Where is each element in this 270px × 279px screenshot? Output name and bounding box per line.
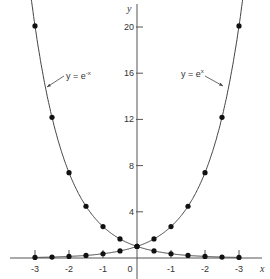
data-point xyxy=(32,23,37,28)
data-point xyxy=(117,236,122,241)
annotation-e-x: y = ex xyxy=(181,68,223,86)
data-point xyxy=(185,204,190,209)
x-tick-label: -3 xyxy=(31,264,39,274)
data-point xyxy=(219,254,224,259)
data-point xyxy=(83,204,88,209)
axes: x y xyxy=(10,3,265,279)
data-point xyxy=(100,224,105,229)
data-point xyxy=(66,254,71,259)
y-tick-label: 16 xyxy=(124,68,134,78)
data-point xyxy=(117,248,122,253)
x-tick-label: -1 xyxy=(99,264,107,274)
x-tick-label: -2 xyxy=(65,264,73,274)
annotation-e-neg-x: y = e-x xyxy=(47,70,91,87)
curve-e-neg-x xyxy=(31,0,239,257)
arrow-head-icon xyxy=(47,84,51,87)
data-point xyxy=(202,170,207,175)
data-point xyxy=(236,255,241,260)
data-point xyxy=(151,236,156,241)
curve-annotations: y = e-xy = ex xyxy=(47,68,223,87)
data-point xyxy=(185,253,190,258)
data-point xyxy=(151,248,156,253)
data-point xyxy=(219,115,224,120)
y-tick-label: 20 xyxy=(124,22,134,32)
data-point xyxy=(32,255,37,260)
data-point xyxy=(66,170,71,175)
data-point xyxy=(168,224,173,229)
data-point xyxy=(168,251,173,256)
data-point xyxy=(49,115,54,120)
data-point xyxy=(83,253,88,258)
x-tick-label: -3 xyxy=(235,264,243,274)
data-point xyxy=(134,244,139,249)
curve-label-text: y = ex xyxy=(181,68,204,79)
y-tick-label: 4 xyxy=(129,207,134,217)
data-point xyxy=(100,251,105,256)
curve-label-text: y = e-x xyxy=(66,70,91,81)
exponential-chart: x y -3-2-10-1-2-348121620 y = e-xy = ex xyxy=(0,0,270,279)
curve-e-x xyxy=(35,0,243,257)
data-point xyxy=(236,23,241,28)
y-tick-label: 12 xyxy=(124,114,134,124)
x-axis-label: x xyxy=(259,263,265,274)
x-tick-label: -2 xyxy=(201,264,209,274)
data-point xyxy=(202,254,207,259)
y-tick-label: 8 xyxy=(129,161,134,171)
x-tick-label: 0 xyxy=(127,264,132,274)
x-tick-label: -1 xyxy=(167,264,175,274)
y-axis-label: y xyxy=(126,3,132,14)
data-point xyxy=(49,254,54,259)
